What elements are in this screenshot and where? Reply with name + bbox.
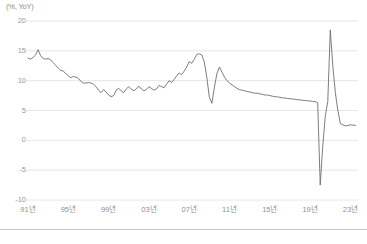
data-line-series [28, 30, 355, 185]
gridlines [26, 21, 358, 200]
line-chart: (%, YoY) 20151050-5-10 91년95년99년03년07년11… [0, 0, 367, 244]
x-axis-tick-2007: 07년 [182, 206, 197, 214]
x-axis-tick-2019: 19년 [302, 206, 317, 214]
x-axis-tick-2003: 03년 [141, 206, 156, 214]
x-axis-tick-1999: 99년 [101, 206, 116, 214]
x-axis-tick-2011: 11년 [222, 206, 237, 214]
x-axis-tick-1991: 91년 [20, 206, 35, 214]
x-axis-tick-2015: 15년 [262, 206, 277, 214]
bottom-divider [0, 229, 367, 230]
x-axis-tick-2023: 23년 [343, 206, 358, 214]
x-axis-tick-labels: 91년95년99년03년07년11년15년19년23년 [0, 206, 367, 220]
x-axis-tick-1995: 95년 [61, 206, 76, 214]
